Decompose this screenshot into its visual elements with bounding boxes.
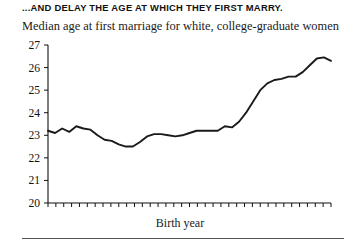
x-axis-title: Birth year xyxy=(0,216,360,231)
y-tick-label: 20 xyxy=(28,197,40,210)
x-tick-label: 1931 xyxy=(36,211,59,214)
x-tick-label: 61 xyxy=(278,211,290,214)
x-tick-label: 56 xyxy=(239,211,251,214)
x-axis-labels: 193136414651566166 xyxy=(36,211,329,214)
x-tick-label: 66 xyxy=(317,211,329,214)
chart-subtitle: Median age at first marriage for white, … xyxy=(22,19,358,34)
x-tick-label: 46 xyxy=(160,211,172,214)
y-tick-label: 26 xyxy=(28,62,40,75)
chart-figure: ...AND DELAY THE AGE AT WHICH THEY FIRST… xyxy=(0,0,360,247)
y-tick-label: 27 xyxy=(28,39,40,52)
y-axis-ticks xyxy=(44,45,48,203)
y-tick-label: 22 xyxy=(28,152,40,165)
y-axis-labels: 2021222324252627 xyxy=(28,39,40,210)
bottom-divider xyxy=(22,238,344,239)
x-tick-label: 36 xyxy=(82,211,94,214)
y-tick-label: 25 xyxy=(28,84,40,97)
plot-svg: 2021222324252627 193136414651566166 xyxy=(0,34,360,214)
x-tick-label: 51 xyxy=(199,211,211,214)
x-tick-label: 41 xyxy=(121,211,133,214)
data-series-line xyxy=(48,57,331,146)
y-tick-label: 24 xyxy=(28,107,40,120)
plot-area: 2021222324252627 193136414651566166 xyxy=(0,34,360,214)
y-tick-label: 23 xyxy=(28,129,40,142)
x-axis-ticks xyxy=(48,203,331,207)
headline: ...AND DELAY THE AGE AT WHICH THEY FIRST… xyxy=(22,2,342,13)
y-tick-label: 21 xyxy=(28,174,40,187)
